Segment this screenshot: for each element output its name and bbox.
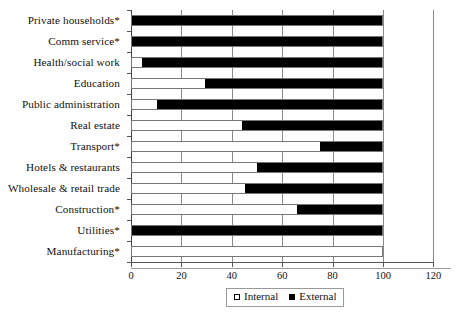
bar-segment-external — [132, 226, 382, 235]
bar-row — [131, 225, 383, 236]
x-axis-tick — [181, 262, 182, 267]
y-axis-label: Education — [0, 73, 126, 94]
bar-row — [131, 162, 383, 173]
legend-entry-internal: Internal — [234, 290, 278, 304]
x-axis-tick-label: 0 — [128, 270, 133, 281]
y-axis-label: Private households* — [0, 10, 126, 31]
y-axis-tick — [127, 178, 131, 179]
x-gridline — [433, 10, 434, 262]
y-axis-label: Comm service* — [0, 31, 126, 52]
stacked-bar-chart: Private households*Comm service*Health/s… — [0, 0, 457, 320]
x-axis-tick-label: 60 — [277, 270, 288, 281]
bar-segment-external — [132, 16, 382, 25]
legend-entry-external: External — [289, 290, 336, 304]
legend-label-internal: Internal — [244, 290, 278, 304]
y-axis-label: Real estate — [0, 115, 126, 136]
y-axis-label: Manufacturing* — [0, 241, 126, 262]
y-axis-label: Construction* — [0, 199, 126, 220]
bar-segment-internal — [132, 142, 320, 151]
chart-legend: Internal External — [226, 288, 344, 307]
bar-row — [131, 36, 383, 47]
bar-segment-external — [142, 58, 382, 67]
bar-segment-internal — [132, 58, 142, 67]
x-axis-baseline-rule — [131, 268, 451, 269]
y-axis-tick — [127, 199, 131, 200]
bar-segment-internal — [132, 205, 297, 214]
bar-segment-external — [132, 37, 382, 46]
y-axis-tick — [127, 136, 131, 137]
white-square-icon — [234, 294, 240, 300]
x-axis-tick-label: 100 — [375, 270, 391, 281]
bar-segment-internal — [132, 79, 205, 88]
bar-series-container — [131, 10, 383, 262]
caption-strip — [8, 310, 448, 318]
bar-row — [131, 120, 383, 131]
x-axis-tick-label: 40 — [227, 270, 238, 281]
bar-segment-internal — [132, 247, 382, 256]
x-axis-tick-label: 80 — [327, 270, 338, 281]
y-axis-tick — [127, 262, 131, 263]
y-axis-tick — [127, 241, 131, 242]
bar-segment-external — [245, 184, 383, 193]
bar-row — [131, 183, 383, 194]
bar-row — [131, 57, 383, 68]
bar-segment-internal — [132, 184, 245, 193]
y-axis-tick — [127, 94, 131, 95]
black-square-icon — [289, 294, 295, 300]
bar-segment-external — [242, 121, 382, 130]
bar-segment-internal — [132, 163, 257, 172]
bar-segment-internal — [132, 100, 157, 109]
y-axis-label: Public administration — [0, 94, 126, 115]
bar-row — [131, 99, 383, 110]
bar-segment-internal — [132, 121, 242, 130]
bar-row — [131, 15, 383, 26]
x-axis-tick — [433, 262, 434, 267]
x-axis-tick — [383, 262, 384, 267]
legend-label-external: External — [299, 290, 336, 304]
bar-segment-external — [257, 163, 382, 172]
bar-row — [131, 246, 383, 257]
y-axis-label: Transport* — [0, 136, 126, 157]
bar-row — [131, 141, 383, 152]
bar-segment-external — [297, 205, 382, 214]
y-axis-tick — [127, 157, 131, 158]
y-axis-label: Health/social work — [0, 52, 126, 73]
y-axis-label: Hotels & restaurants — [0, 157, 126, 178]
bar-segment-external — [205, 79, 383, 88]
x-axis-tick — [232, 262, 233, 267]
bar-row — [131, 204, 383, 215]
y-axis-tick — [127, 10, 131, 11]
x-axis-tick-label: 20 — [176, 270, 187, 281]
x-gridline — [383, 10, 384, 262]
y-axis-tick — [127, 220, 131, 221]
x-axis-tick-label: 120 — [426, 270, 442, 281]
y-axis-label: Utilities* — [0, 220, 126, 241]
y-axis-label: Wholesale & retail trade — [0, 178, 126, 199]
x-axis-tick — [333, 262, 334, 267]
bar-row — [131, 78, 383, 89]
y-axis-tick — [127, 52, 131, 53]
y-axis-category-labels: Private households*Comm service*Health/s… — [0, 10, 126, 262]
x-axis-tick — [282, 262, 283, 267]
x-axis-tick — [131, 262, 132, 267]
y-axis-tick — [127, 73, 131, 74]
y-axis-tick — [127, 115, 131, 116]
bar-segment-external — [320, 142, 383, 151]
bar-segment-external — [157, 100, 382, 109]
y-axis-tick — [127, 31, 131, 32]
